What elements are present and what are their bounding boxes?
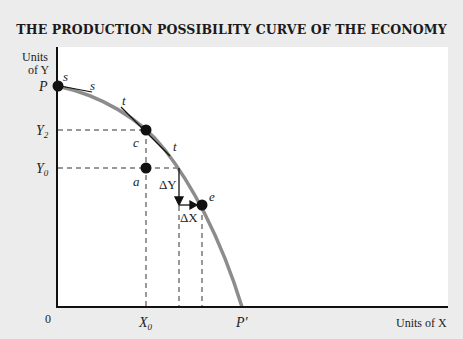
tick-y2-base: Y <box>36 123 44 138</box>
y-axis-label-line1: Units <box>22 51 48 63</box>
tick-p: P <box>39 80 48 94</box>
label-s-1: s <box>63 70 68 83</box>
label-t-1: t <box>122 94 126 107</box>
point-c <box>141 125 152 136</box>
y-axis-label-line2: of Y <box>28 64 49 76</box>
tick-x0: X0 <box>139 316 152 332</box>
label-delta-y: ΔY <box>159 178 177 191</box>
origin-label: 0 <box>45 313 51 325</box>
x-axis-label: Units of X <box>396 317 447 329</box>
tick-x0-base: X <box>139 315 148 330</box>
point-a <box>141 163 152 174</box>
delta-x-arrowhead <box>190 201 197 209</box>
tick-y2: Y2 <box>36 124 48 140</box>
point-e <box>197 200 208 211</box>
tick-y0-sub: 0 <box>44 168 49 178</box>
label-t-2: t <box>173 140 177 153</box>
point-p <box>53 81 64 92</box>
label-c: c <box>133 136 139 149</box>
delta-y-arrowhead <box>175 197 183 205</box>
label-e: e <box>209 190 215 203</box>
label-a: a <box>133 175 140 188</box>
tick-p-prime: P′ <box>236 316 248 330</box>
tick-y2-sub: 2 <box>44 130 49 140</box>
tick-y0: Y0 <box>36 162 48 178</box>
label-delta-x: ΔX <box>180 211 198 224</box>
ppc-diagram <box>0 0 463 339</box>
tick-x0-sub: 0 <box>148 322 153 332</box>
label-s-2: s <box>90 79 95 92</box>
tick-y0-base: Y <box>36 161 44 176</box>
